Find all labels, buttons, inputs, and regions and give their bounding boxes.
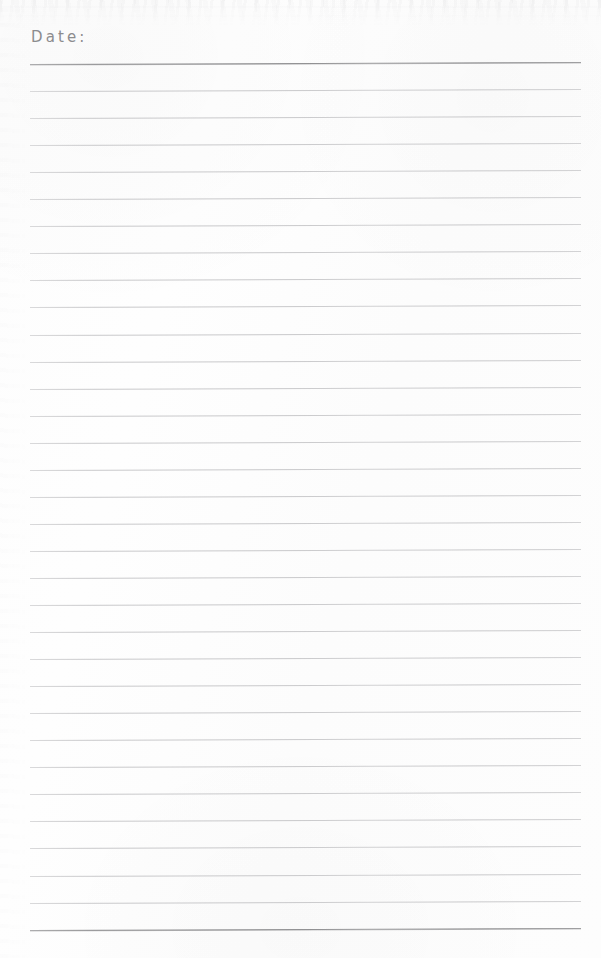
ruled-line [30, 278, 581, 281]
ruled-line [30, 711, 581, 714]
ruled-line [30, 765, 581, 768]
ruled-line [30, 62, 581, 65]
ruled-line [30, 360, 581, 363]
ruled-line [30, 522, 581, 525]
ruled-line [30, 549, 581, 552]
ruled-line [30, 603, 581, 606]
ruled-line [30, 684, 581, 687]
ruled-line [30, 901, 581, 904]
ruled-line [30, 495, 581, 498]
ruled-line [30, 630, 581, 633]
ruled-lines [0, 0, 601, 958]
ruled-line [30, 197, 581, 200]
ruled-line [30, 874, 581, 877]
ruled-line [30, 306, 581, 309]
ruled-line [30, 143, 581, 146]
ruled-line [30, 89, 581, 92]
notebook-page: Date: [0, 0, 601, 958]
ruled-line [30, 387, 581, 390]
ruled-line [30, 738, 581, 741]
ruled-line [30, 928, 581, 931]
ruled-line [30, 224, 581, 227]
ruled-line [30, 116, 581, 119]
ruled-line [30, 576, 581, 579]
ruled-line [30, 847, 581, 850]
ruled-line [30, 468, 581, 471]
ruled-line [30, 414, 581, 417]
ruled-line [30, 170, 581, 173]
ruled-line [30, 251, 581, 254]
ruled-line [30, 657, 581, 660]
ruled-line [30, 441, 581, 444]
ruled-line [30, 792, 581, 795]
ruled-line [30, 333, 581, 336]
ruled-line [30, 819, 581, 822]
